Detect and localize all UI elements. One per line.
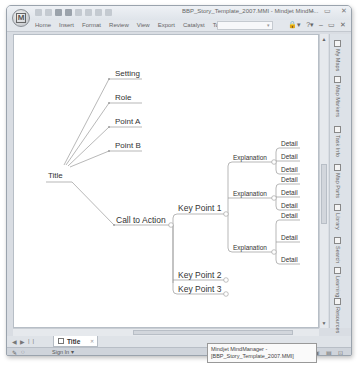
tab-export[interactable]: Export — [158, 22, 175, 28]
topic-detail[interactable]: Detail — [281, 256, 298, 263]
horizontal-scroll-thumb[interactable] — [133, 330, 293, 335]
tooltip-line-2: [BBP_Story_Template_2007.MMI] — [211, 353, 313, 360]
minimize-button[interactable]: – — [310, 7, 314, 15]
tab-review[interactable]: Review — [109, 22, 129, 28]
title-bar: BBP_Story_Template_2007.MMI - Mindjet Mi… — [7, 6, 351, 20]
tab-view[interactable]: View — [137, 22, 150, 28]
side-tab-my-maps[interactable]: My Maps — [334, 40, 341, 71]
topic-key-point-3[interactable]: Key Point 3 — [178, 284, 221, 294]
tab-insert[interactable]: Insert — [59, 22, 74, 28]
search-icon — [334, 237, 341, 244]
topic-detail[interactable]: Detail — [281, 140, 298, 147]
lock-icon[interactable]: 🔒▾ — [288, 21, 301, 29]
topic-detail[interactable]: Detail — [281, 234, 298, 241]
side-tab-resources[interactable]: Resources — [334, 298, 341, 333]
document-tab-title[interactable]: Title ✕ — [53, 336, 98, 347]
tab-home[interactable]: Home — [35, 22, 51, 28]
print-icon[interactable] — [65, 9, 72, 16]
horizontal-scrollbar[interactable] — [13, 328, 319, 336]
task-info-icon — [334, 126, 341, 133]
taskbar-tooltip: Mindjet MindManager - [BBP_Story_Templat… — [207, 343, 317, 363]
close-button[interactable]: ✕ — [341, 7, 347, 15]
status-icon[interactable]: ◌ — [21, 349, 25, 356]
doc-close-button[interactable]: ✕ — [340, 21, 346, 29]
topic-detail[interactable]: Detail — [281, 189, 298, 196]
separator: | — [28, 338, 30, 345]
app-window: BBP_Story_Template_2007.MMI - Mindjet Mi… — [6, 5, 352, 356]
map-icon[interactable] — [75, 9, 82, 16]
scroll-up-arrow-icon[interactable]: ▲ — [321, 36, 327, 42]
redo-icon[interactable] — [95, 9, 102, 16]
layout-icon[interactable]: ▤ — [326, 349, 332, 356]
topic-explanation-1[interactable]: Explanation — [233, 154, 267, 161]
tab-prev-icon[interactable]: ◀ — [12, 338, 17, 345]
side-tab-map-markers[interactable]: Map Markers — [334, 76, 341, 117]
doc-minimize-button[interactable]: – — [319, 21, 323, 29]
vertical-scroll-thumb[interactable] — [321, 164, 327, 224]
window-controls: – ▭ ✕ — [310, 7, 347, 15]
map-parts-icon — [334, 164, 341, 171]
task-pane-side-bar: My Maps Map Markers Task Info Map Parts … — [329, 34, 351, 328]
resources-icon — [334, 298, 341, 305]
side-tab-learning[interactable]: Learning — [334, 267, 341, 297]
topic-point-a[interactable]: Point A — [115, 117, 140, 126]
scroll-down-arrow-icon[interactable]: ▼ — [321, 320, 327, 326]
topic-explanation-3[interactable]: Explanation — [233, 244, 267, 251]
document-tab-label: Title — [67, 338, 80, 345]
topic-detail[interactable]: Detail — [281, 176, 298, 183]
library-icon — [334, 204, 341, 211]
central-topic-title[interactable]: Title — [48, 171, 63, 180]
map-connectors — [14, 35, 320, 329]
ribbon-right-controls: 🔒▾ ?▾ – ▭ ✕ — [288, 21, 346, 29]
open-icon[interactable] — [45, 9, 52, 16]
vertical-scrollbar[interactable]: ▲ ▼ — [319, 34, 328, 328]
doc-restore-button[interactable]: ▭ — [328, 21, 335, 29]
tab-format[interactable]: Format — [82, 22, 101, 28]
sign-in-button[interactable]: Sign In ▾ — [52, 349, 74, 355]
ribbon-search-input[interactable]: ▾ — [217, 21, 273, 30]
maximize-button[interactable]: ▭ — [324, 7, 331, 15]
app-logo: M — [16, 13, 27, 23]
learning-icon — [334, 267, 341, 274]
map-markers-icon — [334, 76, 341, 83]
window-title: BBP_Story_Template_2007.MMI - Mindjet Mi… — [182, 8, 318, 14]
topic-detail[interactable]: Detail — [281, 202, 298, 209]
insert-icon[interactable] — [105, 9, 112, 16]
save-icon[interactable] — [55, 9, 62, 16]
side-tab-search[interactable]: Search — [334, 237, 341, 263]
my-maps-icon — [334, 40, 341, 47]
topic-explanation-2[interactable]: Explanation — [233, 190, 267, 197]
quick-access-toolbar — [35, 9, 112, 16]
app-menu-button[interactable]: M — [12, 9, 30, 27]
ribbon-tabs: Home Insert Format Review View Export Ca… — [7, 20, 351, 32]
undo-icon[interactable] — [85, 9, 92, 16]
side-tab-map-parts[interactable]: Map Parts — [334, 164, 341, 198]
side-tab-task-info[interactable]: Task Info — [334, 126, 341, 157]
close-tab-icon[interactable]: ✕ — [90, 338, 94, 344]
topic-setting[interactable]: Setting — [115, 69, 140, 78]
tab-catalyst[interactable]: Catalyst — [183, 22, 205, 28]
side-tab-library[interactable]: Library — [334, 204, 341, 230]
tooltip-line-1: Mindjet MindManager - — [211, 346, 313, 353]
separator: | — [33, 338, 35, 345]
tab-navigation: ◀ ▶ | | — [12, 338, 34, 345]
help-icon[interactable]: ?▾ — [306, 21, 314, 29]
new-icon[interactable] — [35, 9, 42, 16]
map-document-icon — [58, 338, 64, 344]
map-canvas[interactable]: Title Setting Role Point A Point B Call … — [13, 34, 319, 328]
topic-key-point-1[interactable]: Key Point 1 — [178, 203, 221, 213]
topic-detail[interactable]: Detail — [281, 212, 298, 219]
topic-role[interactable]: Role — [115, 93, 131, 102]
topic-key-point-2[interactable]: Key Point 2 — [178, 270, 221, 280]
topic-detail[interactable]: Detail — [281, 166, 298, 173]
topic-call-to-action[interactable]: Call to Action — [116, 215, 166, 225]
topic-point-b[interactable]: Point B — [115, 141, 141, 150]
pen-icon[interactable]: ✎ — [12, 349, 17, 356]
topic-detail[interactable]: Detail — [281, 153, 298, 160]
zoom-icon[interactable]: ⊡ — [338, 349, 343, 356]
tab-next-icon[interactable]: ▶ — [20, 338, 25, 345]
